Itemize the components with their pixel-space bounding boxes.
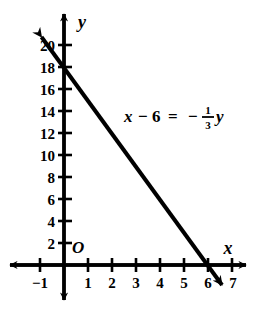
equation-fraction-numerator: 1 [205, 104, 211, 116]
x-tick-label--1: −1 [32, 275, 48, 291]
y-axis-label: y [76, 12, 87, 32]
y-tick-label-14: 14 [40, 104, 56, 120]
y-tick-label-10: 10 [40, 148, 55, 164]
y-tick-label-16: 16 [40, 82, 56, 98]
graph-canvas: −1 1 2 3 4 5 6 7 2 [0, 0, 254, 318]
x-tick-label-7: 7 [229, 275, 237, 291]
equation-x-term: x [123, 107, 133, 126]
equation-negative-sign: − [188, 107, 198, 126]
line-series-y-equals-18-minus-3x [42, 37, 223, 285]
equation-constant-6: 6 [152, 107, 161, 126]
equation-equals-sign: = [168, 107, 178, 126]
coordinate-graph-figure: −1 1 2 3 4 5 6 7 2 [0, 0, 254, 318]
plotted-line [42, 37, 223, 285]
y-tick-label-12: 12 [40, 126, 55, 142]
y-tick-label-8: 8 [48, 170, 56, 186]
y-tick-label-4: 4 [48, 214, 56, 230]
x-tick-label-5: 5 [180, 275, 188, 291]
equation-annotation: x − 6 = − 1 3 y [123, 104, 224, 131]
origin-label: O [72, 238, 84, 257]
y-tick-label-6: 6 [48, 192, 56, 208]
x-tick-label-2: 2 [108, 275, 116, 291]
x-tick-label-6: 6 [204, 275, 212, 291]
y-axis-tick-labels: 2 4 6 8 10 12 14 16 18 20 [40, 38, 56, 252]
equation-lhs-var: x [123, 107, 133, 126]
x-tick-label-4: 4 [156, 275, 164, 291]
x-axis-label: x [223, 238, 233, 258]
y-tick-label-18: 18 [40, 60, 55, 76]
equation-minus-sign: − [138, 107, 148, 126]
x-tick-label-1: 1 [84, 275, 92, 291]
equation-y-term: y [214, 107, 224, 126]
equation-fraction-denominator: 3 [205, 119, 211, 131]
y-tick-label-2: 2 [48, 236, 56, 252]
x-tick-label-3: 3 [132, 275, 140, 291]
